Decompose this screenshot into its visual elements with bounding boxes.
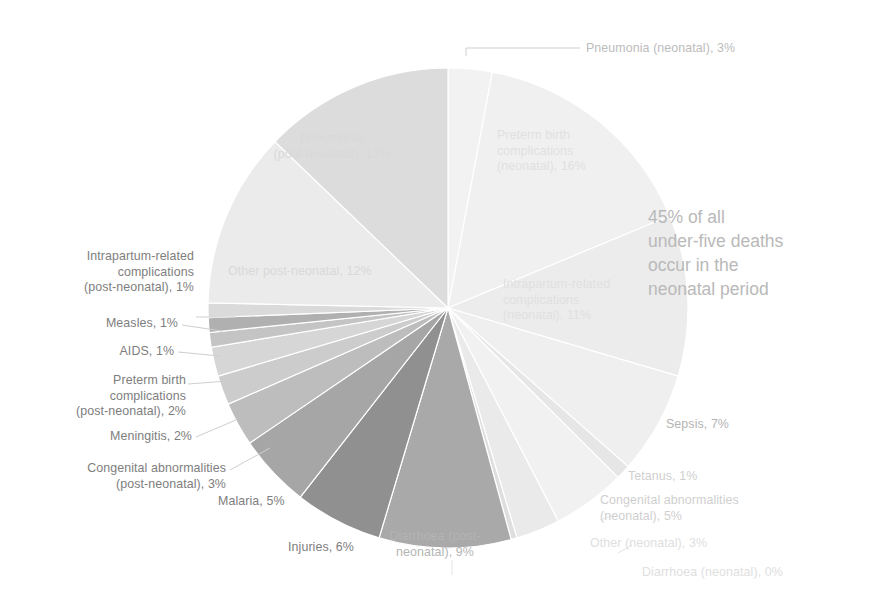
slice-label-diarrhoea-neonatal: Diarrhoea (neonatal), 0%: [642, 565, 862, 581]
slice-label-congenital-neonatal: Congenital abnormalities (neonatal), 5%: [600, 493, 820, 524]
slice-label-other-neonatal: Other (neonatal), 3%: [590, 536, 790, 552]
slice-label-intrapartum-post-neonatal: Intrapartum-related complications (post-…: [6, 249, 194, 296]
slice-label-preterm-neonatal: Preterm birth complications (neonatal), …: [497, 128, 637, 175]
slice-label-injuries: Injuries, 6%: [288, 540, 418, 556]
slice-label-meningitis: Meningitis, 2%: [6, 429, 192, 445]
slice-label-measles: Measles, 1%: [6, 316, 178, 332]
slice-label-aids: AIDS, 1%: [6, 344, 174, 360]
slice-label-pneumonia-post-neonatal: Pneumonia (post-neonatal), 13%: [252, 131, 412, 162]
chart-canvas: Pneumonia (post-neonatal), 13% Preterm b…: [0, 0, 896, 611]
slice-label-intrapartum-neonatal: Intrapartum-related complications (neona…: [503, 277, 653, 324]
slice-label-malaria: Malaria, 5%: [218, 494, 348, 510]
slice-label-pneumonia-neonatal: Pneumonia (neonatal), 3%: [586, 41, 876, 57]
slice-label-sepsis: Sepsis, 7%: [666, 417, 836, 433]
neonatal-period-annotation: 45% of all under-five deaths occur in th…: [648, 205, 878, 301]
leader-meningitis: [196, 420, 236, 437]
slice-label-tetanus: Tetanus, 1%: [628, 469, 798, 485]
leader-pneumonia-neonatal: [466, 48, 580, 56]
slice-label-other-post-neonatal: Other post-neonatal, 12%: [228, 264, 428, 280]
slice-label-congenital-post-neonatal: Congenital abnormalities (post-neonatal)…: [0, 461, 226, 492]
slice-label-preterm-post-neonatal: Preterm birth complications (post-neonat…: [6, 373, 186, 420]
